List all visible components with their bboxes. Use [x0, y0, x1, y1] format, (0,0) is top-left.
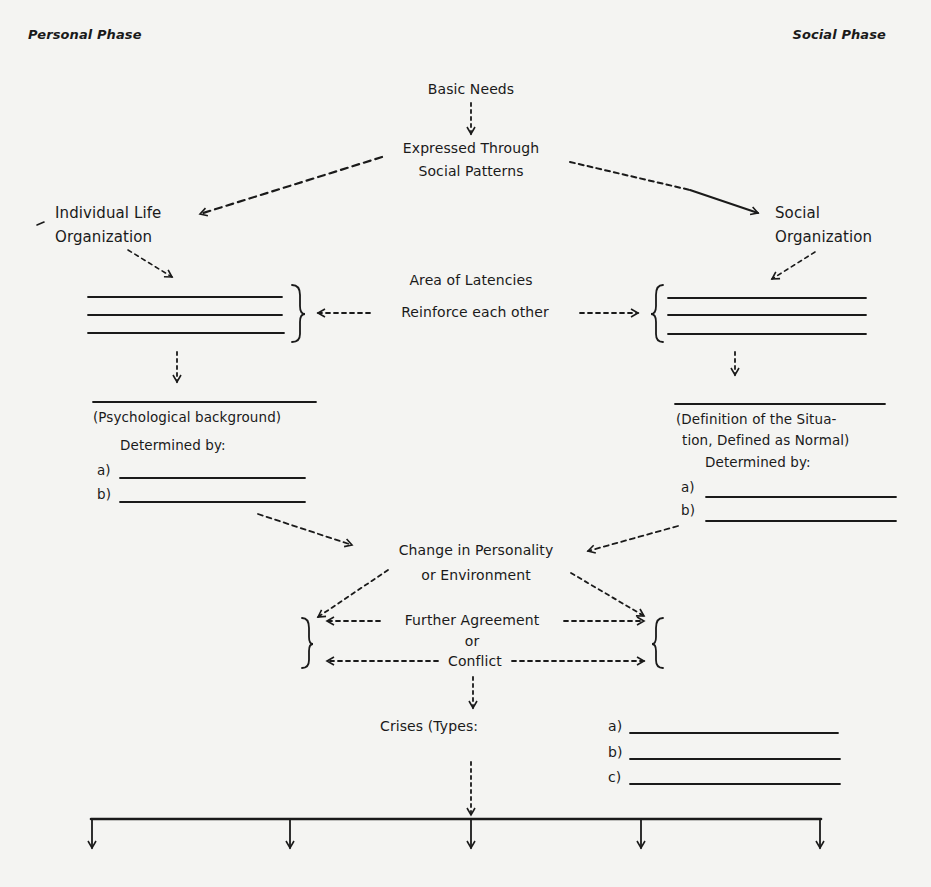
social-phase-label: Social Phase	[792, 26, 886, 43]
individual-life-line2: Organization	[55, 229, 152, 246]
definition-line2-label: tion, Defined as Normal)	[682, 432, 849, 449]
conflict-label: Conflict	[448, 653, 502, 670]
area-of-latencies-label: Area of Latencies	[409, 272, 532, 289]
right-agreement-brace	[652, 618, 663, 668]
arrow-expressed-to-social	[570, 162, 758, 213]
expressed-through-line1: Expressed Through	[403, 140, 539, 157]
arrow-definition-to-change	[588, 526, 678, 551]
left-determinant-b-label: b)	[97, 486, 111, 503]
crisis-type-a-label: a)	[608, 718, 622, 735]
change-in-personality-line1: Change in Personality	[399, 542, 554, 559]
arrow-psych-to-change	[258, 514, 352, 545]
arrow-change-to-left-brace	[318, 570, 388, 617]
definition-line1-label: (Definition of the Situa-	[676, 411, 837, 428]
left-agreement-brace	[302, 618, 313, 668]
right-latency-lines	[668, 298, 866, 334]
individual-life-line1: Individual Life	[55, 205, 161, 222]
crisis-type-b-label: b)	[608, 744, 623, 761]
right-latency-brace	[651, 285, 663, 342]
arrow-individual-to-latencies	[128, 250, 172, 277]
or-label: or	[465, 633, 480, 650]
further-agreement-label: Further Agreement	[405, 612, 540, 629]
personal-phase-label: Personal Phase	[28, 26, 142, 43]
basic-needs-node: Basic Needs	[428, 81, 515, 98]
social-organization-line1: Social	[775, 205, 820, 222]
arrow-change-to-right-brace	[571, 573, 644, 616]
social-organization-line2: Organization	[775, 229, 872, 246]
crises-types-label: Crises (Types:	[380, 718, 478, 735]
left-latency-brace	[292, 285, 305, 342]
arrow-social-to-latencies	[772, 252, 815, 279]
right-determined-by-label: Determined by:	[705, 454, 811, 471]
left-determinant-a-label: a)	[97, 462, 111, 479]
right-determinant-a-label: a)	[681, 479, 695, 496]
change-in-personality-line2: or Environment	[421, 567, 531, 584]
stray-mark	[37, 222, 44, 225]
right-determinant-b-label: b)	[681, 502, 695, 519]
crisis-type-c-label: c)	[608, 769, 621, 786]
left-latency-lines	[88, 297, 284, 333]
reinforce-each-other-label: Reinforce each other	[401, 304, 549, 321]
branch-arrows	[92, 819, 820, 848]
arrow-expressed-to-individual	[200, 157, 382, 214]
expressed-through-line2: Social Patterns	[418, 163, 523, 180]
diagram-canvas: Personal Phase Social Phase Basic Needs …	[0, 0, 931, 887]
psychological-background-label: (Psychological background)	[93, 409, 281, 426]
left-determined-by-label: Determined by:	[120, 437, 226, 454]
